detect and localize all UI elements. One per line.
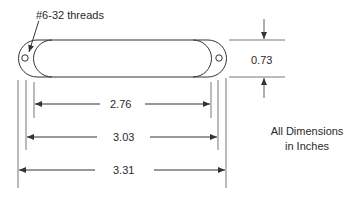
- overall-length-label: 3.31: [113, 164, 134, 176]
- pickup-outline: [19, 40, 227, 77]
- left-mount-hole: [22, 55, 28, 61]
- height-dimension-label: 0.73: [251, 54, 272, 66]
- units-note: All Dimensions in Inches: [262, 124, 352, 154]
- right-mount-hole: [216, 55, 222, 61]
- hole-spacing-label: 3.03: [113, 131, 134, 143]
- inner-left-arc: [34, 40, 53, 77]
- units-note-line1: All Dimensions: [262, 124, 352, 139]
- inner-right-arc: [193, 40, 212, 77]
- units-note-line2: in Inches: [262, 139, 352, 154]
- drawing-canvas: [0, 0, 353, 199]
- thread-callout-label: #6-32 threads: [36, 9, 104, 21]
- inner-length-label: 2.76: [110, 98, 131, 110]
- outer-body: [19, 40, 227, 77]
